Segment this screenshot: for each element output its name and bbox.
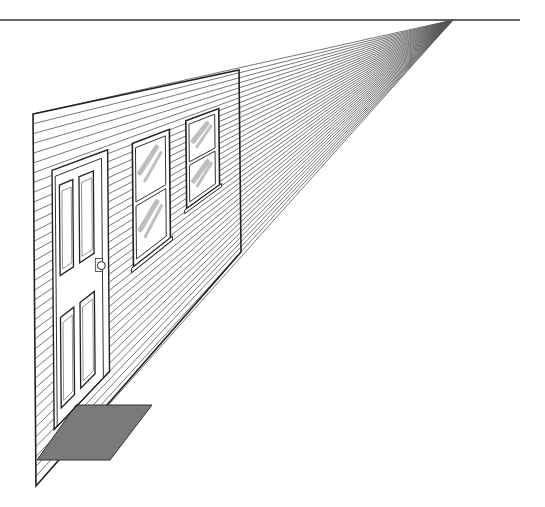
- window-2: [185, 109, 222, 214]
- siding-line: [33, 20, 453, 163]
- perspective-drawing: [0, 0, 545, 507]
- siding-line: [33, 20, 453, 153]
- perspective-illustration: One-point perspective: house wall with d…: [0, 0, 545, 507]
- siding-line: [33, 20, 453, 124]
- siding-line: [33, 20, 453, 173]
- door-knob-icon: [97, 262, 105, 270]
- door: [52, 150, 110, 430]
- window-1: [131, 129, 172, 272]
